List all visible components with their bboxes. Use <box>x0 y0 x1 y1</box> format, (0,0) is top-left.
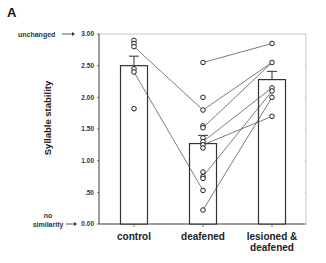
bar-control <box>121 56 148 227</box>
x-axis-labels: controldeafenedlesioned &deafened <box>117 231 297 253</box>
unchanged-label: unchanged <box>18 31 55 39</box>
y-axis-title: Syllable stability <box>42 80 53 155</box>
y-tick-label: 0.00 <box>81 220 94 227</box>
data-point <box>270 89 275 94</box>
bar-rect <box>259 80 286 224</box>
bar-chart: A 0.00.501.001.502.002.503.00 controldea… <box>0 0 326 263</box>
data-point <box>201 170 206 175</box>
arrowhead-icon <box>72 32 75 36</box>
data-point <box>201 208 206 213</box>
data-point <box>270 41 275 46</box>
y-tick-label: 3.00 <box>81 30 94 37</box>
data-point <box>201 60 206 65</box>
data-point <box>201 95 206 100</box>
data-point <box>132 106 137 111</box>
data-point <box>270 60 275 65</box>
data-point <box>201 125 206 130</box>
x-category-label: deafened <box>250 242 294 253</box>
data-point <box>132 44 137 49</box>
data-point <box>201 176 206 181</box>
data-point <box>270 95 275 100</box>
panel-label: A <box>7 5 17 20</box>
data-point <box>201 188 206 193</box>
x-category-label: control <box>117 231 151 242</box>
x-category-label: lesioned & <box>247 231 298 242</box>
arrowhead-icon <box>74 222 77 226</box>
y-tick-label: 2.50 <box>81 62 94 69</box>
data-point <box>201 146 206 151</box>
bar-rect <box>121 66 148 224</box>
y-tick-label: 1.00 <box>81 157 94 164</box>
x-category-label: deafened <box>181 231 225 242</box>
data-point <box>270 114 275 119</box>
no-similarity-label-line1: no <box>44 212 53 219</box>
y-tick-label: 1.50 <box>81 125 94 132</box>
no-similarity-label-line2: similarity <box>33 221 64 229</box>
data-point <box>201 108 206 113</box>
y-tick-label: 2.00 <box>81 94 94 101</box>
data-point <box>132 70 137 75</box>
y-tick-label: .50 <box>85 189 94 196</box>
connection-line <box>203 44 272 63</box>
